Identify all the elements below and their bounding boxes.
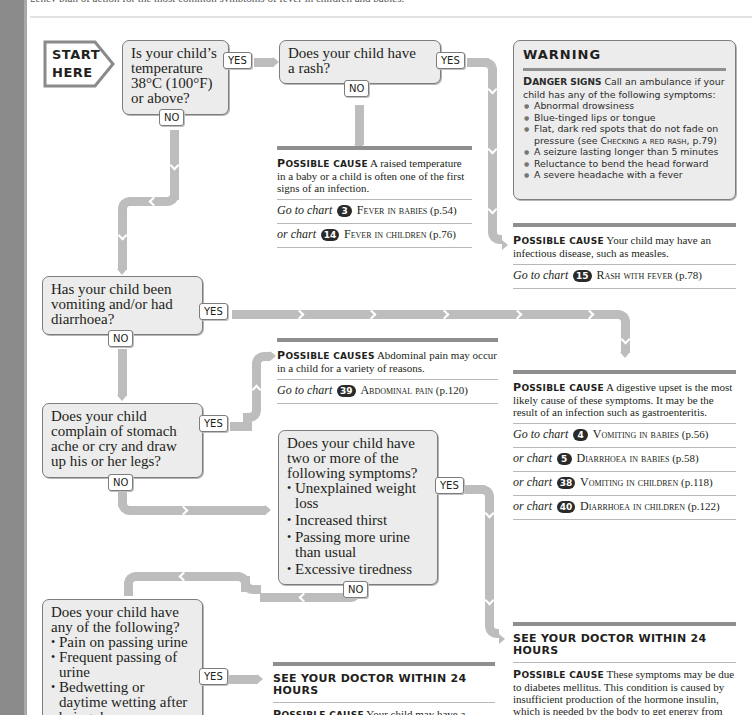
- chart-number-badge: 4: [573, 429, 588, 441]
- warning-title: WARNING: [523, 47, 726, 71]
- possible-cause-label: POSSIBLE CAUSE: [513, 236, 604, 246]
- diabetes-yes-button[interactable]: YES: [435, 477, 464, 494]
- symptom-item: Unexplained weight loss: [287, 481, 429, 511]
- chart-number-badge: 40: [557, 501, 576, 513]
- warning-panel: WARNING DANGER SIGNS Call an ambulance i…: [513, 40, 736, 200]
- urinary-symptom-list: Pain on passing urine Frequent passing o…: [51, 635, 194, 715]
- link-chart-38[interactable]: or chart 38 Vomiting in children (p.118): [513, 471, 736, 495]
- stomach-ache-no-button[interactable]: NO: [108, 474, 133, 491]
- chart-number-badge: 15: [573, 270, 592, 282]
- symptom-item: Excessive tiredness: [287, 562, 429, 577]
- page-top-text: gency plan of action for the most common…: [30, 0, 730, 2]
- see-doctor-heading: SEE YOUR DOCTOR WITHIN 24 HOURS: [513, 633, 736, 663]
- diabetes-no-button[interactable]: NO: [343, 581, 368, 598]
- question-diabetes-symptoms: Does your child have two or more of the …: [278, 430, 438, 585]
- stomach-ache-yes-button[interactable]: YES: [199, 415, 228, 432]
- chart-number-badge: 3: [337, 205, 352, 217]
- danger-sign-item: Flat, dark red spots that do not fade on…: [523, 123, 726, 146]
- start-here-marker: START HERE: [43, 40, 115, 88]
- urinary-yes-button[interactable]: YES: [199, 668, 228, 685]
- symptom-item: Increased thirst: [287, 513, 429, 528]
- danger-sign-item: Blue-tinged lips or tongue: [523, 112, 726, 124]
- danger-sign-item: A seizure lasting longer than 5 minutes: [523, 146, 726, 158]
- danger-signs-label: DANGER SIGNS: [523, 77, 601, 87]
- start-here-label: START HERE: [52, 46, 100, 82]
- symptom-list: Unexplained weight loss Increased thirst…: [287, 481, 429, 577]
- page-edge-strip: [0, 0, 27, 715]
- urinary-symptom-item: Pain on passing urine: [51, 635, 194, 650]
- checking-red-rash-link[interactable]: Checking a red rash: [601, 135, 687, 146]
- link-chart-40[interactable]: or chart 40 Diarrhoea in children (p.122…: [513, 495, 736, 520]
- possible-cause-label: POSSIBLE CAUSE: [277, 159, 368, 169]
- result-uti: SEE YOUR DOCTOR WITHIN 24 HOURS POSSIBLE…: [273, 662, 495, 715]
- danger-sign-item: Reluctance to bend the head forward: [523, 158, 726, 170]
- link-chart-14[interactable]: or chart 14 Fever in children (p.76): [277, 223, 472, 248]
- vomiting-no-button[interactable]: NO: [108, 330, 133, 347]
- result-rash-infectious: POSSIBLE CAUSE Your child may have an in…: [513, 223, 736, 289]
- possible-cause-label: POSSIBLE CAUSE: [513, 670, 604, 680]
- possible-cause-label: POSSIBLE CAUSES: [277, 351, 375, 361]
- rash-yes-button[interactable]: YES: [436, 52, 465, 69]
- result-fever-infection: POSSIBLE CAUSE A raised temperature in a…: [277, 146, 472, 248]
- see-doctor-heading: SEE YOUR DOCTOR WITHIN 24 HOURS: [273, 673, 495, 703]
- rash-no-button[interactable]: NO: [344, 80, 369, 97]
- possible-cause-label: POSSIBLE CAUSE: [273, 710, 364, 715]
- chart-number-badge: 14: [321, 229, 340, 241]
- chart-number-badge: 38: [557, 477, 576, 489]
- temperature-yes-button[interactable]: YES: [223, 52, 252, 69]
- vomiting-yes-button[interactable]: YES: [199, 303, 228, 320]
- link-chart-5[interactable]: or chart 5 Diarrhoea in babies (p.58): [513, 447, 736, 471]
- chart-number-badge: 39: [337, 385, 356, 397]
- possible-cause-label: POSSIBLE CAUSE: [513, 383, 604, 393]
- danger-signs-list: Abnormal drowsiness Blue-tinged lips or …: [523, 100, 726, 181]
- link-chart-4[interactable]: Go to chart 4 Vomiting in babies (p.56): [513, 423, 736, 447]
- link-chart-15[interactable]: Go to chart 15 Rash with fever (p.78): [513, 264, 736, 289]
- result-diabetes: SEE YOUR DOCTOR WITHIN 24 HOURS POSSIBLE…: [513, 622, 736, 715]
- link-chart-3[interactable]: Go to chart 3 Fever in babies (p.54): [277, 199, 472, 223]
- question-stomach-ache: Does your child complain of stomach ache…: [42, 403, 203, 478]
- question-urinary-symptoms: Does your child have any of the followin…: [42, 599, 203, 715]
- link-chart-39[interactable]: Go to chart 39 Abdominal pain (p.120): [277, 379, 498, 404]
- urinary-symptom-item: Frequent passing of urine: [51, 650, 194, 680]
- question-temperature: Is your child’s temperature 38°C (100°F)…: [122, 40, 229, 115]
- urinary-symptom-item: Bedwetting or daytime wetting after bein…: [51, 680, 194, 715]
- symptom-item: Passing more urine than usual: [287, 530, 429, 560]
- result-digestive-upset: POSSIBLE CAUSE A digestive upset is the …: [513, 370, 736, 520]
- result-abdominal-pain: POSSIBLE CAUSES Abdominal pain may occur…: [277, 338, 498, 404]
- question-rash: Does your child have a rash?: [279, 40, 441, 84]
- temperature-no-button[interactable]: NO: [159, 109, 184, 126]
- danger-sign-item: A severe headache with a fever: [523, 169, 726, 181]
- danger-sign-item: Abnormal drowsiness: [523, 100, 726, 112]
- chart-number-badge: 5: [557, 453, 572, 465]
- header-divider: [30, 16, 752, 18]
- question-vomiting-diarrhoea: Has your child been vomiting and/or had …: [42, 276, 203, 335]
